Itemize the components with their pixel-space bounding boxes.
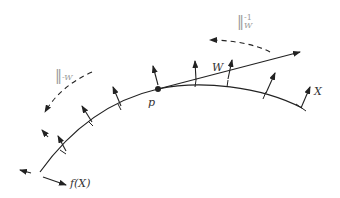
transport-right-dashed bbox=[210, 40, 270, 52]
diagram-canvas: p W X f(X) ‖-W ‖ -1 W bbox=[0, 0, 340, 198]
label-transport-right: ‖ -1 W bbox=[237, 14, 252, 30]
label-x: X bbox=[314, 86, 322, 97]
flow-arrow-left bbox=[20, 170, 31, 173]
curve bbox=[40, 85, 302, 172]
label-p: p bbox=[148, 97, 155, 108]
curve-ticks bbox=[60, 80, 266, 154]
diagram-svg bbox=[0, 0, 340, 198]
field-x-arrow bbox=[301, 87, 310, 108]
flow-arrow-right bbox=[43, 177, 66, 185]
label-w: W bbox=[212, 62, 223, 73]
normal-arrows bbox=[42, 60, 275, 151]
label-fx: f(X) bbox=[70, 178, 91, 189]
label-transport-left: ‖-W bbox=[55, 68, 73, 82]
vector-w-arrow bbox=[158, 52, 300, 89]
